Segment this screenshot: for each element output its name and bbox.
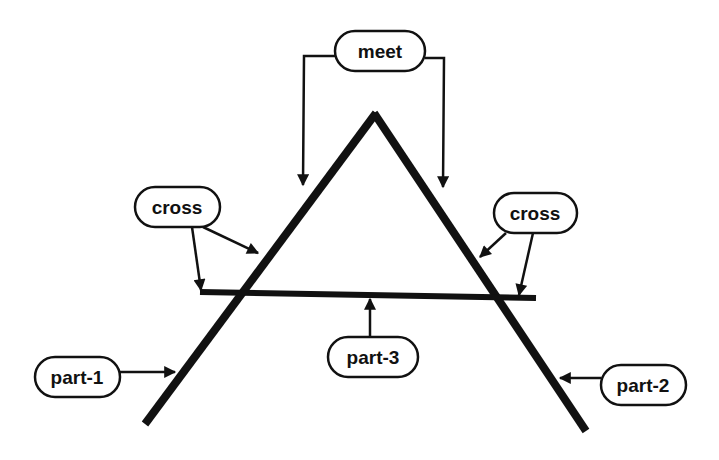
part-3-label: part-3	[347, 347, 400, 368]
part-1-callout: part-1	[35, 357, 175, 397]
part-2-callout: part-2	[560, 365, 686, 405]
part-3-line	[200, 292, 536, 298]
cross-right-arrow-to-part2	[480, 233, 506, 257]
cross-right-arrow-to-part3	[519, 233, 533, 295]
cross-left-arrow-to-part3	[192, 227, 201, 290]
cross-right-label: cross	[510, 203, 561, 224]
meet-callout: meet	[303, 31, 444, 187]
meet-arrow-left	[303, 56, 335, 185]
part-2-label: part-2	[617, 375, 670, 396]
part-3-callout: part-3	[328, 299, 418, 377]
part-1-label: part-1	[51, 367, 104, 388]
cross-left-label: cross	[152, 197, 203, 218]
meet-arrow-right	[425, 58, 444, 187]
part-1-line	[145, 113, 376, 424]
part-2-line	[374, 113, 586, 431]
cross-right-callout: cross	[480, 193, 577, 295]
diagram-canvas: meet cross cross part-3 part-1 part-2	[0, 0, 719, 460]
cross-left-arrow-to-part1	[203, 227, 258, 253]
cross-left-callout: cross	[135, 187, 258, 290]
meet-label: meet	[358, 41, 403, 62]
